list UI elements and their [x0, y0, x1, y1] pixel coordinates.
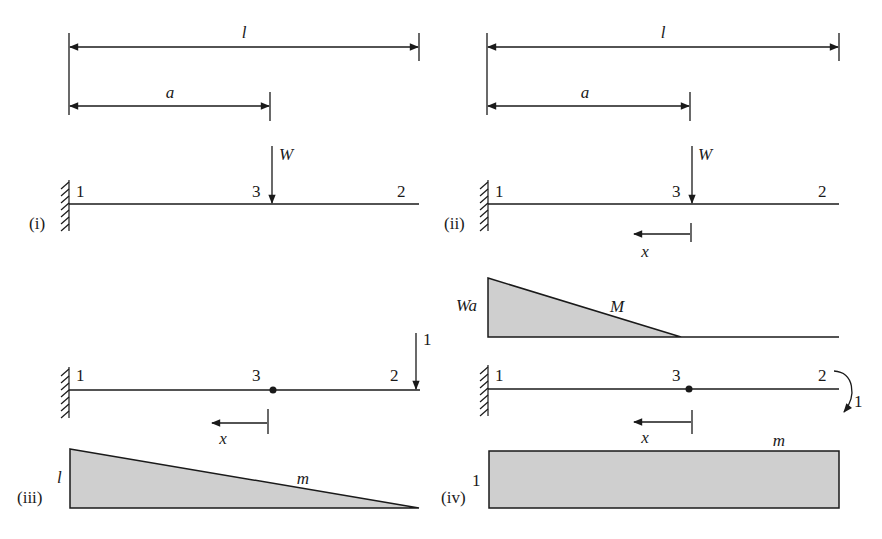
- unit-moment-label: 1: [854, 392, 863, 411]
- node-3: 3: [252, 182, 261, 201]
- unit-moment-arrow-icon: [834, 371, 852, 412]
- moment-diagram-m: [489, 451, 839, 508]
- moment-label: M: [609, 297, 625, 316]
- node-3-dot: [270, 387, 277, 394]
- panel-label: (iii): [17, 488, 43, 507]
- dim-label-l: l: [242, 23, 247, 42]
- moment-value: l: [57, 468, 62, 487]
- dim-label-a: a: [581, 83, 590, 102]
- fixed-support-icon: [480, 365, 488, 416]
- node-2: 2: [390, 366, 399, 385]
- dim-label-l: l: [661, 23, 666, 42]
- moment-label: m: [773, 431, 785, 450]
- node-2: 2: [818, 366, 827, 385]
- fixed-support-icon: [480, 180, 488, 231]
- moment-diagram-m: [70, 449, 419, 508]
- load-label: W: [698, 145, 714, 164]
- moment-value: Wa: [456, 296, 477, 315]
- x-coord-label: x: [218, 429, 227, 448]
- node-1: 1: [495, 182, 504, 201]
- node-2: 2: [397, 182, 406, 201]
- fixed-support-icon: [61, 180, 69, 231]
- node-1: 1: [495, 366, 504, 385]
- moment-label: m: [297, 469, 309, 488]
- panel-ii: l a W 1 3 2 (ii) x Wa M: [444, 23, 839, 337]
- node-3-dot: [686, 386, 693, 393]
- panel-label: (iv): [441, 488, 466, 507]
- moment-diagram-M: [488, 278, 681, 337]
- dim-label-a: a: [166, 83, 175, 102]
- panel-label: (i): [29, 214, 45, 233]
- node-1: 1: [76, 366, 85, 385]
- node-3: 3: [672, 182, 681, 201]
- panel-label: (ii): [444, 214, 465, 233]
- fixed-support-icon: [61, 367, 69, 418]
- unit-load-label: 1: [423, 330, 432, 349]
- node-3: 3: [672, 366, 681, 385]
- panel-iii: 1 1 3 2 x l m (iii): [17, 330, 432, 508]
- node-3: 3: [252, 366, 261, 385]
- panel-iv: 1 1 3 2 x m 1 (iv): [441, 365, 863, 508]
- panel-i: l a W 1 3 2 (i): [29, 23, 419, 233]
- cantilever-diagram: l a W 1 3 2 (i) l a: [0, 0, 882, 539]
- load-label: W: [279, 145, 295, 164]
- moment-value: 1: [472, 471, 481, 490]
- x-coord-label: x: [640, 428, 649, 447]
- node-1: 1: [76, 182, 85, 201]
- node-2: 2: [818, 182, 827, 201]
- x-coord-label: x: [640, 242, 649, 261]
